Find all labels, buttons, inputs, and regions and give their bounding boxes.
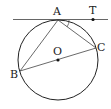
point-t-dot <box>91 18 94 21</box>
label-o: O <box>53 45 62 58</box>
label-t: T <box>89 4 97 17</box>
label-b: B <box>10 68 18 81</box>
point-o-dot <box>56 58 59 61</box>
label-c: C <box>97 41 105 54</box>
diagram-canvas: A T O C B <box>0 0 111 109</box>
label-a: A <box>52 5 62 18</box>
segment-ac <box>58 20 96 48</box>
geometry-diagram: A T O C B <box>0 0 111 109</box>
